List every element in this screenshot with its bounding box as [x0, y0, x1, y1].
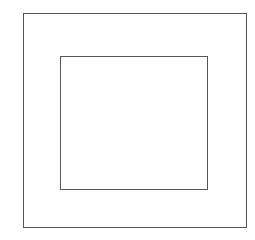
inner-square [60, 56, 208, 190]
